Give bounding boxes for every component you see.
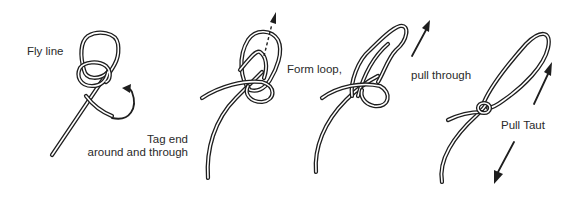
fly-line-label: Fly line: [27, 44, 63, 58]
step-4-knot: [441, 34, 548, 182]
step-3-knot: [316, 26, 407, 172]
pull-taut-label: Pull Taut: [501, 118, 545, 132]
around-and-through-label: around and through: [82, 145, 188, 159]
step-2-knot: [202, 32, 280, 178]
arrow-down-left-icon: [494, 142, 514, 184]
curved-arrow-icon: [112, 84, 134, 119]
tag-end-label: Tag end: [92, 132, 188, 146]
arrow-up-right-icon: [412, 20, 430, 56]
knot-illustration: [0, 0, 578, 197]
knot-diagram: Fly line Tag end around and through Form…: [0, 0, 578, 197]
form-loop-label: Form loop,: [287, 62, 342, 76]
pull-through-label: pull through: [411, 68, 471, 82]
